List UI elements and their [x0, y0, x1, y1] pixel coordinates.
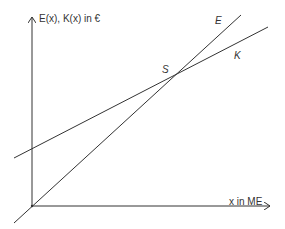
line-k [14, 27, 268, 158]
y-axis-label: E(x), K(x) in € [39, 13, 100, 24]
diagram-canvas [0, 0, 285, 229]
x-axis-label: x in ME [229, 196, 262, 207]
intersection-label: S [162, 64, 169, 75]
origin-point [31, 205, 33, 207]
line-e [14, 15, 241, 223]
line-e-label: E [215, 15, 222, 26]
line-k-label: K [234, 50, 241, 61]
